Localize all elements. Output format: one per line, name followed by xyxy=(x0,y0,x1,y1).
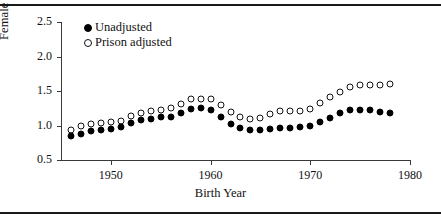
y-tick: 2.0 xyxy=(57,57,62,58)
x-tick xyxy=(410,160,411,165)
data-point xyxy=(297,108,304,115)
data-point xyxy=(227,109,234,116)
y-tick: 1.0 xyxy=(57,126,62,127)
open-circle-icon xyxy=(84,39,92,47)
data-point xyxy=(137,116,144,123)
data-point xyxy=(387,81,394,88)
data-point xyxy=(337,110,344,117)
data-point xyxy=(227,121,234,128)
top-horizontal-rule xyxy=(0,4,441,6)
data-point xyxy=(327,94,334,101)
data-point xyxy=(127,120,134,127)
data-point xyxy=(277,108,284,115)
data-point xyxy=(237,125,244,132)
x-axis-label: Birth Year xyxy=(0,186,441,201)
data-point xyxy=(77,130,84,137)
x-tick xyxy=(211,160,212,165)
data-point xyxy=(377,82,384,89)
y-axis-label: Female to Male Odds Ratio xyxy=(0,0,12,40)
x-tick-label: 1960 xyxy=(199,168,223,183)
x-tick-label: 1950 xyxy=(99,168,123,183)
x-tick xyxy=(310,160,311,165)
data-point xyxy=(177,101,184,108)
chart-legend: Unadjusted Prison adjusted xyxy=(84,20,172,50)
x-tick xyxy=(111,160,112,165)
data-point xyxy=(87,128,94,135)
data-point xyxy=(77,123,84,130)
legend-item-unadjusted: Unadjusted xyxy=(84,20,172,35)
chart-figure: Female to Male Odds Ratio Birth Year 0.5… xyxy=(0,0,441,220)
data-point xyxy=(107,125,114,132)
data-point xyxy=(187,105,194,112)
data-point xyxy=(347,107,354,114)
data-point xyxy=(67,132,74,139)
data-point xyxy=(197,96,204,103)
y-tick-label: 2.0 xyxy=(37,49,52,64)
data-point xyxy=(147,116,154,123)
data-point xyxy=(97,126,104,133)
data-point xyxy=(367,107,374,114)
data-point xyxy=(317,119,324,126)
data-point xyxy=(207,106,214,113)
data-point xyxy=(257,127,264,134)
y-tick: 0.5 xyxy=(57,160,62,161)
data-point xyxy=(207,96,214,103)
x-tick-label: 1980 xyxy=(398,168,422,183)
data-point xyxy=(197,105,204,112)
data-point xyxy=(307,122,314,129)
data-point xyxy=(117,123,124,130)
data-point xyxy=(377,108,384,115)
data-point xyxy=(277,124,284,131)
y-tick-label: 0.5 xyxy=(37,152,52,167)
y-tick-label: 1.5 xyxy=(37,83,52,98)
data-point xyxy=(287,108,294,115)
data-point xyxy=(157,114,164,121)
data-point xyxy=(257,114,264,121)
data-point xyxy=(217,102,224,109)
data-point xyxy=(217,113,224,120)
legend-label: Prison adjusted xyxy=(95,35,172,50)
x-axis-line xyxy=(61,160,410,161)
data-point xyxy=(247,115,254,122)
data-point xyxy=(147,108,154,115)
bottom-horizontal-rule xyxy=(0,212,441,214)
data-point xyxy=(357,81,364,88)
data-point xyxy=(127,112,134,119)
y-tick-label: 2.5 xyxy=(37,14,52,29)
y-tick: 1.5 xyxy=(57,91,62,92)
data-point xyxy=(337,88,344,95)
data-point xyxy=(297,123,304,130)
data-point xyxy=(317,100,324,107)
data-point xyxy=(367,81,374,88)
legend-item-prison-adjusted: Prison adjusted xyxy=(84,35,172,50)
data-point xyxy=(237,114,244,121)
data-point xyxy=(167,105,174,112)
data-point xyxy=(287,124,294,131)
data-point xyxy=(167,113,174,120)
filled-circle-icon xyxy=(84,24,92,32)
legend-label: Unadjusted xyxy=(95,20,152,35)
data-point xyxy=(177,110,184,117)
data-point xyxy=(187,96,194,103)
y-tick-label: 1.0 xyxy=(37,118,52,133)
data-point xyxy=(357,107,364,114)
data-point xyxy=(307,105,314,112)
data-point xyxy=(267,110,274,117)
y-tick: 2.5 xyxy=(57,22,62,23)
data-point xyxy=(247,127,254,134)
data-point xyxy=(267,125,274,132)
data-point xyxy=(327,114,334,121)
data-point xyxy=(347,83,354,90)
x-tick-label: 1970 xyxy=(298,168,322,183)
data-point xyxy=(387,110,394,117)
